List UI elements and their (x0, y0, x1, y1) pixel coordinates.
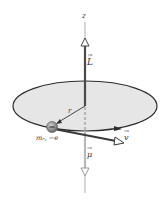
orbit-diagram (0, 0, 168, 203)
z-axis-label: z (82, 13, 86, 20)
velocity-arrowhead-icon (114, 137, 124, 145)
mu-label: μ (87, 151, 92, 159)
velocity-label: v (124, 134, 129, 142)
L-arrowhead-icon (81, 38, 89, 46)
electron-label: mₑ, −e (36, 135, 58, 142)
L-label: L (87, 58, 93, 67)
mu-arrowhead-icon (81, 168, 89, 176)
radius-label: r (68, 108, 71, 115)
